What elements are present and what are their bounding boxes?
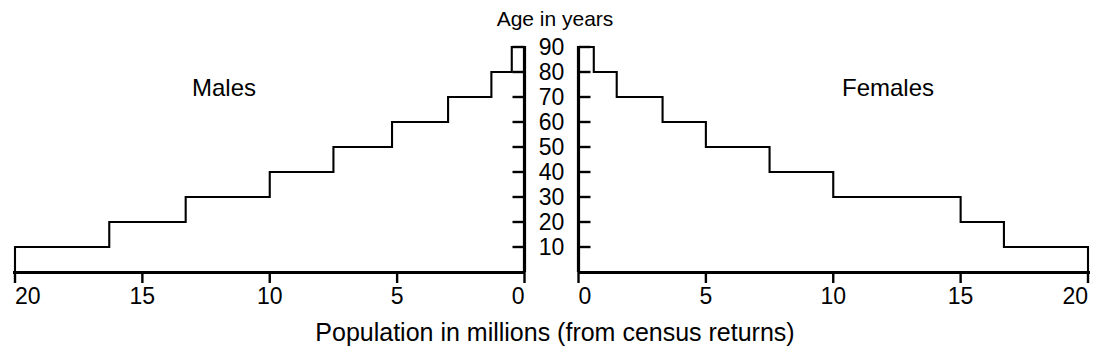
population-tick-label-females-15: 15	[948, 283, 974, 309]
population-tick-label-females-5: 5	[699, 283, 712, 309]
population-tick-label-females-10: 10	[820, 283, 846, 309]
males-distribution-outline	[15, 47, 525, 272]
population-tick-label-males-15: 15	[130, 283, 156, 309]
population-pyramid-chart: Age in years Males Females 1020304050607…	[0, 0, 1110, 349]
age-tick-label-80: 80	[539, 59, 565, 85]
age-tick-label-40: 40	[539, 159, 565, 185]
population-tick-label-females-20: 20	[1062, 283, 1088, 309]
series-label-males: Males	[192, 74, 256, 101]
series-label-females: Females	[842, 74, 934, 101]
x-axis-caption: Population in millions (from census retu…	[315, 318, 794, 346]
age-tick-label-50: 50	[539, 134, 565, 160]
age-tick-label-20: 20	[539, 209, 565, 235]
population-tick-label-males-5: 5	[391, 283, 404, 309]
right-age-tick-group	[579, 47, 591, 247]
population-tick-label-males-0: 0	[512, 283, 525, 309]
left-population-label-group: 20151050	[15, 283, 525, 309]
age-tick-label-group: 102030405060708090	[539, 34, 565, 260]
age-tick-label-90: 90	[539, 34, 565, 60]
age-tick-label-30: 30	[539, 184, 565, 210]
population-tick-label-males-10: 10	[257, 283, 283, 309]
population-pyramid-figure: Age in years Males Females 1020304050607…	[0, 0, 1110, 349]
age-tick-label-60: 60	[539, 109, 565, 135]
age-tick-label-70: 70	[539, 84, 565, 110]
left-age-tick-group	[513, 47, 525, 247]
population-tick-label-females-0: 0	[579, 283, 592, 309]
females-distribution-outline	[579, 47, 1089, 272]
right-population-label-group: 05101520	[579, 283, 1089, 309]
population-tick-label-males-20: 20	[15, 283, 41, 309]
y-axis-title: Age in years	[497, 7, 614, 30]
age-tick-label-10: 10	[539, 234, 565, 260]
